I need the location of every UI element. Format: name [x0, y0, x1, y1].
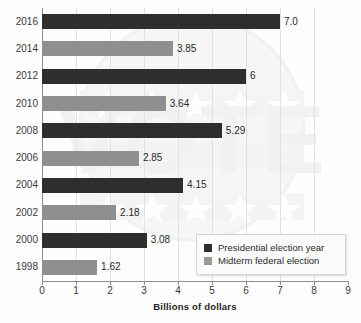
x-tick-label-8: 8	[311, 286, 317, 296]
bar-2006	[42, 151, 139, 166]
bar-row: 5.29	[42, 117, 245, 144]
bar-2016	[42, 14, 280, 29]
bar-2004	[42, 178, 183, 193]
y-tick-label-2006: 2006	[0, 153, 38, 163]
x-tick-label-4: 4	[175, 286, 181, 296]
bar-row: 3.08	[42, 226, 170, 253]
x-axis: 0123456789	[42, 281, 348, 301]
bar-row: 3.85	[42, 35, 196, 62]
y-axis: 2016201420122010200820062004200220001998	[0, 8, 38, 281]
bar-row: 1.62	[42, 254, 121, 281]
bar-2000	[42, 233, 147, 248]
x-tick-label-5: 5	[209, 286, 215, 296]
x-tick-label-2: 2	[107, 286, 113, 296]
bar-value-label: 2.85	[143, 153, 162, 163]
x-tick-label-9: 9	[345, 286, 351, 296]
legend-item-presidential: Presidential election year	[204, 242, 339, 253]
legend-label: Midterm federal election	[218, 255, 319, 266]
y-tick-label-2014: 2014	[0, 44, 38, 54]
bar-value-label: 1.62	[101, 262, 120, 272]
legend-item-midterm: Midterm federal election	[204, 255, 339, 266]
bar-2008	[42, 123, 222, 138]
bar-row: 3.64	[42, 90, 189, 117]
y-tick-label-2000: 2000	[0, 235, 38, 245]
bar-value-label: 3.85	[177, 44, 196, 54]
bar-value-label: 3.64	[170, 99, 189, 109]
bar-2010	[42, 96, 166, 111]
bar-value-label: 3.08	[151, 235, 170, 245]
bar-chart: VOTE 7.03.8563.645.292.854.152.183.081.6…	[0, 0, 361, 323]
legend-swatch-icon	[204, 257, 212, 265]
bar-value-label: 7.0	[284, 17, 298, 27]
y-tick-label-2004: 2004	[0, 180, 38, 190]
x-tick-label-6: 6	[243, 286, 249, 296]
bar-row: 4.15	[42, 172, 207, 199]
bar-1998	[42, 260, 97, 275]
y-tick-label-2008: 2008	[0, 126, 38, 136]
bar-value-label: 6	[250, 71, 256, 81]
bar-row: 2.85	[42, 145, 162, 172]
bar-row: 7.0	[42, 8, 298, 35]
x-tick-label-0: 0	[39, 286, 45, 296]
bar-value-label: 2.18	[120, 208, 139, 218]
x-tick-label-1: 1	[73, 286, 79, 296]
bar-2002	[42, 205, 116, 220]
bar-value-label: 4.15	[187, 180, 206, 190]
y-tick-label-2010: 2010	[0, 99, 38, 109]
x-tick-label-3: 3	[141, 286, 147, 296]
bar-value-label: 5.29	[226, 126, 245, 136]
bar-row: 6	[42, 63, 256, 90]
y-tick-label-1998: 1998	[0, 262, 38, 272]
bar-2014	[42, 41, 173, 56]
bar-2012	[42, 69, 246, 84]
legend-label: Presidential election year	[218, 242, 324, 253]
x-axis-line	[42, 281, 348, 282]
y-tick-label-2012: 2012	[0, 71, 38, 81]
y-tick-label-2002: 2002	[0, 208, 38, 218]
x-axis-title: Billions of dollars	[42, 301, 348, 312]
x-tick-label-7: 7	[277, 286, 283, 296]
bar-row: 2.18	[42, 199, 140, 226]
chart-legend: Presidential election year Midterm feder…	[196, 234, 346, 275]
legend-swatch-icon	[204, 244, 212, 252]
y-tick-label-2016: 2016	[0, 17, 38, 27]
